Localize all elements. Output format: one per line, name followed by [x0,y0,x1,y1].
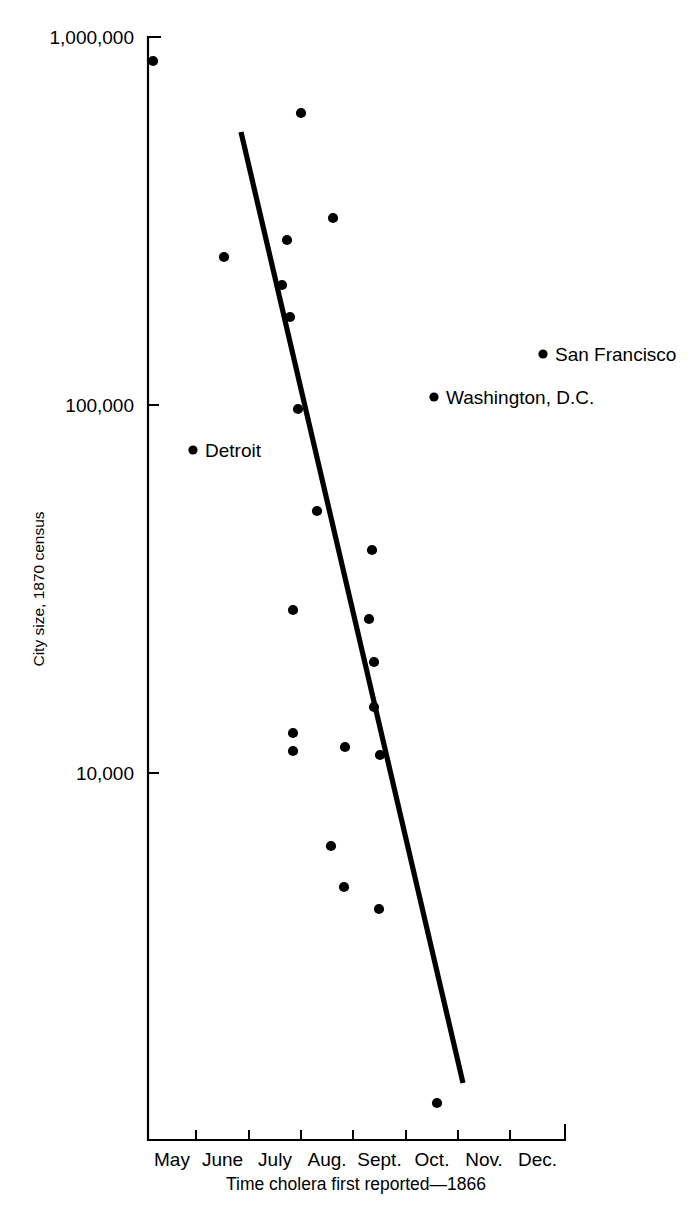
data-point [328,213,338,223]
data-point [340,742,350,752]
x-axis-title: Time cholera first reported—1866 [226,1174,486,1194]
y-axis-tick-labels: 1,000,000100,00010,000 [49,27,134,784]
annotation-san-francisco: San Francisco [538,344,676,365]
scatter-plot-canvas: 1,000,000100,00010,000 MayJuneJulyAug.Se… [0,0,698,1223]
annotation-detroit: Detroit [188,440,261,461]
data-point [432,1098,442,1108]
y-axis-tick-marks [148,37,161,773]
data-point [326,841,336,851]
washington-dc-point [429,392,438,401]
annotation-washington-dc: Washington, D.C. [429,387,594,408]
data-point [282,235,292,245]
x-tick-label: Sept. [357,1149,401,1170]
x-tick-label: Aug. [307,1149,346,1170]
data-point [288,746,298,756]
data-point [369,702,379,712]
data-point [339,882,349,892]
regression-trend-line [241,132,463,1083]
x-tick-label: May [154,1149,190,1170]
washington-dc-label: Washington, D.C. [446,387,594,408]
data-point [288,605,298,615]
detroit-label: Detroit [205,440,262,461]
data-point [285,312,295,322]
data-point [312,506,322,516]
x-tick-label: June [202,1149,243,1170]
data-point [288,728,298,738]
y-axis-title: City size, 1870 census [30,511,47,666]
axis-lines [148,37,565,1140]
detroit-point [188,445,197,454]
x-tick-label: July [258,1149,292,1170]
data-point [364,614,374,624]
data-point [369,657,379,667]
y-tick-label: 10,000 [76,763,134,784]
x-axis-tick-labels: MayJuneJulyAug.Sept.Oct.Nov.Dec. [154,1149,557,1170]
x-axis-tick-marks [148,1124,565,1140]
axes-group [148,37,565,1140]
data-point [277,280,287,290]
data-point [296,108,306,118]
data-point [148,56,158,66]
cholera-city-size-scatter-figure: 1,000,000100,00010,000 MayJuneJulyAug.Se… [0,0,698,1223]
data-point [375,750,385,760]
x-tick-label: Oct. [415,1149,450,1170]
y-tick-label: 1,000,000 [49,27,134,48]
data-point [219,252,229,262]
y-tick-label: 100,000 [65,395,134,416]
data-point [367,545,377,555]
san-francisco-point [538,349,547,358]
trend-line-group [241,132,463,1083]
x-tick-label: Dec. [518,1149,557,1170]
san-francisco-label: San Francisco [555,344,676,365]
x-tick-label: Nov. [465,1149,503,1170]
data-point [374,904,384,914]
data-points-group [148,56,442,1108]
data-point [293,404,303,414]
